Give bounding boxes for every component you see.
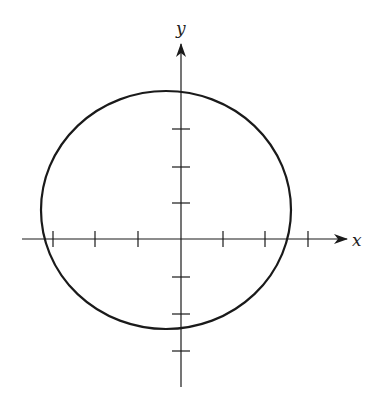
ellipse-diagram: x y	[0, 0, 380, 408]
ellipse-curve	[41, 91, 291, 329]
x-axis-label: x	[352, 230, 362, 250]
y-axis-label: y	[175, 18, 186, 38]
